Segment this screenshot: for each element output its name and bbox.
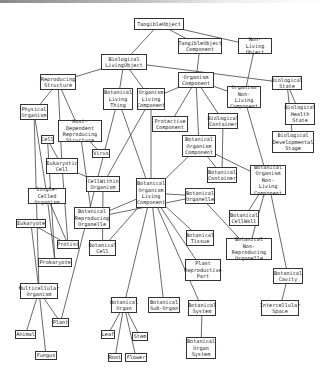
node-biological-health-state: Biological Health State: [285, 103, 315, 125]
node-botanical-tissue: Botanical Tissue: [186, 230, 214, 246]
node-botanical-container: Botanical Container: [207, 167, 237, 183]
node-cell: Cell: [41, 135, 54, 144]
node-intercellular-space: Intercellular Space: [261, 300, 299, 316]
node-root: Root: [108, 353, 122, 362]
node-botanical-living-thing: Botanical Living Thing: [103, 88, 133, 110]
node-physical-organism: Physical Organism: [20, 104, 48, 120]
node-botanical-organism-living-component: Botanical Organism Living Component: [136, 178, 166, 208]
node-single-celled-organism: Single-Celled Organism: [28, 188, 66, 204]
node-organism-non-living-component: Organism Non-Living Component: [227, 86, 261, 108]
edge-botanical-organism-living-component-to-botanical-organ: [124, 193, 151, 305]
edge-multicellular-organism-to-fungus: [39, 291, 46, 356]
node-fungus: Fungus: [35, 351, 57, 360]
node-protist: Protist: [57, 240, 79, 249]
node-host-dependent-reproducing-structure: Host-Dependent Reproducing Structure: [58, 120, 102, 142]
node-botanical-system: Botanical System: [188, 300, 216, 316]
node-tangible-object-component: TangibleObject Component: [178, 38, 222, 54]
node-biological-living-object: Biological LivingObject: [101, 54, 147, 70]
node-tangible-object: TangibleObject: [134, 18, 184, 30]
node-botanical-non-reproducing-organelle: Botanical Non-Reproducing Organelle: [226, 238, 272, 260]
node-botanical-sub-organ: Botanical Sub-Organ: [148, 297, 180, 313]
node-virus: Virus: [92, 149, 110, 158]
node-animal: Animal: [15, 330, 36, 339]
node-organism-component: Organism Component: [178, 72, 214, 88]
node-botanical-reproducing-organelle: Botanical Reproducing Organelle: [74, 207, 110, 229]
node-organism-living-component: Organism Living Component: [137, 88, 165, 110]
node-multicellular-organism: Multicellular Organism: [20, 283, 58, 299]
edge-organism-living-component-to-cell-within-organism: [103, 99, 151, 184]
node-botanical-organ-system: Botanical Organ System: [186, 337, 216, 359]
node-biological-developmental-stage: Biological Developmental Stage: [272, 131, 314, 153]
edge-botanical-organism-living-component-to-botanical-system: [151, 193, 202, 308]
node-botanical-cell: Botanical Cell: [89, 240, 116, 256]
node-botanical-organism-component: Botanical Organism Component: [182, 135, 216, 157]
node-protective-component: Protective Component: [152, 116, 188, 132]
node-eukaryote: Eukaryote: [16, 219, 46, 228]
node-eukaryotic-cell: Eukaryotic Cell: [46, 158, 78, 174]
node-reproducing-structure: Reproducing Structure: [40, 74, 76, 90]
node-flower: Flower: [125, 353, 147, 362]
node-botanical-cavity: Botanical Cavity: [273, 268, 303, 284]
node-botanical-organelle: Botanical Organelle: [185, 188, 215, 204]
node-plant: Plant: [52, 318, 69, 327]
node-biological-state: Biological State: [272, 76, 302, 90]
node-botanical-cell-wall: Botanical CellWall: [229, 210, 259, 226]
node-non-living-object: Non-Living Object: [238, 38, 272, 54]
node-plant-reproductive-part: Plant Reproductive Part: [185, 259, 221, 281]
node-cell-within-organism: CellWithin Organism: [86, 176, 120, 192]
node-prokaryote: Prokaryote: [38, 258, 72, 267]
node-stem: Stem: [132, 332, 148, 341]
node-botanical-organ: Botanical Organ: [111, 297, 137, 313]
node-botanical-organism-non-living-component: Botanical Organism Non-Living Component: [250, 165, 286, 195]
ontology-diagram: TangibleObjectTangibleObject ComponentNo…: [0, 0, 327, 378]
node-leaf: Leaf: [101, 330, 115, 339]
node-biological-container: Biological Container: [208, 113, 238, 129]
